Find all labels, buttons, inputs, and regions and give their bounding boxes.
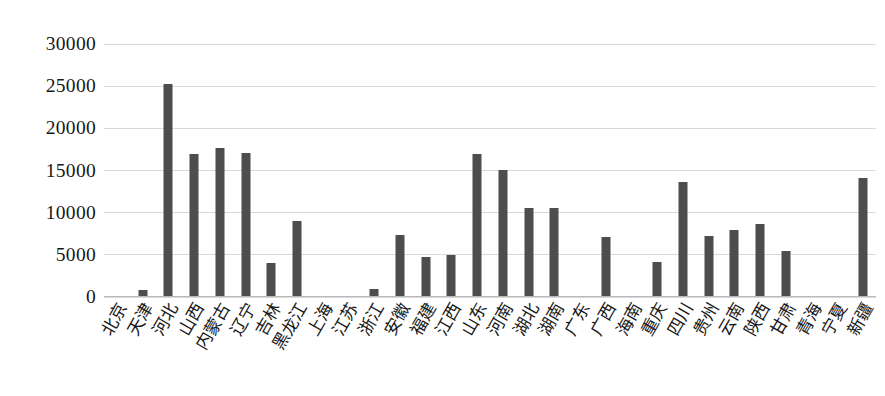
- x-tick-label: 北京: [98, 300, 130, 338]
- x-label-slot: 河北: [155, 297, 181, 396]
- y-tick-label: 20000: [46, 119, 96, 139]
- x-tick-label: 安徽: [381, 300, 413, 338]
- x-label-slot: 甘肃: [773, 297, 799, 396]
- bar-slot: [233, 44, 259, 297]
- bar: [395, 235, 404, 297]
- bar-slot: [130, 44, 156, 297]
- y-axis: 050001000015000200002500030000: [0, 0, 104, 396]
- bar: [447, 255, 456, 297]
- bar-slot: [439, 44, 465, 297]
- bar: [601, 237, 610, 297]
- bar: [292, 221, 301, 297]
- bars-layer: [104, 44, 876, 297]
- x-tick-label: 江西: [433, 300, 465, 338]
- bar-slot: [490, 44, 516, 297]
- x-label-slot: 河南: [490, 297, 516, 396]
- x-tick-label: 浙江: [356, 300, 388, 338]
- x-tick-label: 海南: [613, 300, 645, 338]
- bar: [781, 251, 790, 297]
- x-tick-label: 新疆: [845, 300, 877, 338]
- bar-slot: [773, 44, 799, 297]
- x-label-slot: 新疆: [850, 297, 876, 396]
- x-tick-label: 河南: [484, 300, 516, 338]
- x-label-slot: 江苏: [336, 297, 362, 396]
- x-label-slot: 海南: [619, 297, 645, 396]
- x-tick-label: 山东: [459, 300, 491, 338]
- x-tick-label: 河北: [150, 300, 182, 338]
- bar-slot: [619, 44, 645, 297]
- x-label-slot: 贵州: [696, 297, 722, 396]
- bar-slot: [181, 44, 207, 297]
- bar-slot: [541, 44, 567, 297]
- x-tick-label: 贵州: [690, 300, 722, 338]
- x-tick-label: 青海: [793, 300, 825, 338]
- bar-slot: [104, 44, 130, 297]
- bar-slot: [387, 44, 413, 297]
- x-label-slot: 江西: [439, 297, 465, 396]
- x-tick-label: 陕西: [742, 300, 774, 338]
- x-label-slot: 云南: [722, 297, 748, 396]
- x-label-slot: 重庆: [644, 297, 670, 396]
- bar: [421, 257, 430, 297]
- bar-slot: [593, 44, 619, 297]
- x-label-slot: 内蒙古: [207, 297, 233, 396]
- x-label-slot: 浙江: [361, 297, 387, 396]
- plot-area: [104, 44, 876, 297]
- x-label-slot: 上海: [310, 297, 336, 396]
- x-label-slot: 广东: [567, 297, 593, 396]
- bar-slot: [310, 44, 336, 297]
- x-label-slot: 山东: [464, 297, 490, 396]
- bar-slot: [825, 44, 851, 297]
- x-tick-label: 湖南: [536, 300, 568, 338]
- x-label-slot: 北京: [104, 297, 130, 396]
- x-label-slot: 湖南: [541, 297, 567, 396]
- x-tick-label: 宁夏: [819, 300, 851, 338]
- x-tick-label: 广西: [587, 300, 619, 338]
- bar: [653, 262, 662, 297]
- x-label-slot: 广西: [593, 297, 619, 396]
- y-tick-label: 30000: [46, 34, 96, 54]
- x-label-slot: 黑龙江: [284, 297, 310, 396]
- x-label-slot: 宁夏: [825, 297, 851, 396]
- bar: [756, 224, 765, 297]
- bar-slot: [207, 44, 233, 297]
- bar: [190, 154, 199, 297]
- bar: [498, 170, 507, 297]
- bar-slot: [516, 44, 542, 297]
- x-label-slot: 陕西: [747, 297, 773, 396]
- bar: [524, 208, 533, 297]
- bar-slot: [696, 44, 722, 297]
- bar-slot: [747, 44, 773, 297]
- x-tick-label: 四川: [665, 300, 697, 338]
- x-tick-label: 重庆: [639, 300, 671, 338]
- bar: [550, 208, 559, 297]
- bar-slot: [336, 44, 362, 297]
- x-tick-label: 上海: [304, 300, 336, 338]
- bar-chart: 050001000015000200002500030000 北京天津河北山西内…: [0, 0, 885, 396]
- x-tick-label: 湖北: [510, 300, 542, 338]
- bar: [267, 263, 276, 297]
- x-axis: 北京天津河北山西内蒙古辽宁吉林黑龙江上海江苏浙江安徽福建江西山东河南湖北湖南广东…: [104, 297, 876, 396]
- bar-slot: [722, 44, 748, 297]
- x-tick-label: 甘肃: [767, 300, 799, 338]
- x-label-slot: 天津: [130, 297, 156, 396]
- bar-slot: [850, 44, 876, 297]
- bar: [730, 230, 739, 297]
- bar-slot: [464, 44, 490, 297]
- bar-slot: [644, 44, 670, 297]
- y-tick-label: 5000: [56, 245, 96, 265]
- bar-slot: [284, 44, 310, 297]
- bar: [704, 236, 713, 297]
- x-tick-label: 云南: [716, 300, 748, 338]
- bar: [164, 84, 173, 297]
- y-tick-label: 10000: [46, 203, 96, 223]
- bar-slot: [567, 44, 593, 297]
- y-tick-label: 15000: [46, 161, 96, 181]
- x-tick-label: 天津: [124, 300, 156, 338]
- bar-slot: [799, 44, 825, 297]
- x-tick-label: 江苏: [330, 300, 362, 338]
- x-label-slot: 安徽: [387, 297, 413, 396]
- x-tick-label: 福建: [407, 300, 439, 338]
- bar: [859, 178, 868, 297]
- x-label-slot: 辽宁: [233, 297, 259, 396]
